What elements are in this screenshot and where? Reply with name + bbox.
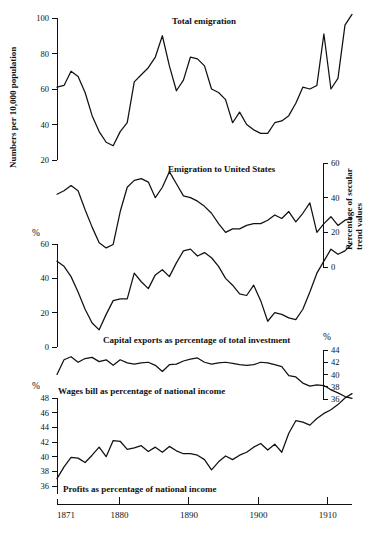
x-tick-label-1871: 1871: [57, 510, 75, 520]
panel1-tick-20: 20: [41, 155, 50, 165]
x-tick-label-1900: 1900: [249, 510, 268, 520]
panel4-tick-36: 36: [331, 394, 340, 404]
panel5-tick-48: 48: [41, 393, 50, 403]
panel5-caption: Profits as percentage of national income: [63, 484, 216, 494]
panel3-tick-60: 60: [41, 239, 50, 249]
panel5-tick-44: 44: [41, 422, 50, 432]
panel2-tick-60: 60: [331, 158, 340, 168]
panel1-y-axis-title: Numbers per 10,000 population: [8, 47, 18, 168]
panel4-tick-40: 40: [331, 370, 340, 380]
panel2-tick-0: 0: [331, 262, 335, 272]
panel3-caption: Capital exports as percentage of total i…: [103, 335, 290, 345]
panel5-tick-38: 38: [41, 466, 50, 476]
panel3-tick-20: 20: [41, 308, 50, 318]
panel5-tick-46: 46: [41, 408, 50, 418]
panel2-tick-40: 40: [331, 193, 340, 203]
panel4-tick-44: 44: [331, 345, 340, 355]
panel2-caption: Emigration to United States: [168, 164, 276, 174]
panel5-tick-40: 40: [41, 452, 50, 462]
x-tick-label-1890: 1890: [180, 510, 199, 520]
panel3-tick-0: 0: [45, 342, 49, 352]
panel4-percent-symbol: %: [323, 332, 331, 342]
panel1-tick-60: 60: [41, 84, 50, 94]
x-tick-label-1880: 1880: [111, 510, 130, 520]
panel5-tick-36: 36: [41, 481, 50, 491]
panel1-tick-40: 40: [41, 120, 50, 130]
panel2-y-axis-title-text: Percentage of secular: [344, 168, 354, 250]
panel2-y-axis-title-text2: trend values: [354, 202, 364, 250]
figure-container: Numbers per 10,000 population 20 40 60 8…: [0, 0, 374, 535]
panel5-tick-42: 42: [41, 437, 50, 447]
panel4-caption: Wages bill as percentage of national inc…: [58, 386, 225, 396]
x-tick-label-1910: 1910: [319, 510, 338, 520]
panel4-tick-42: 42: [331, 357, 340, 367]
panel3-tick-40: 40: [41, 273, 50, 283]
panel1-caption: Total emigration: [172, 16, 236, 26]
panel1-tick-100: 100: [36, 13, 49, 23]
multi-panel-time-series-chart: Numbers per 10,000 population 20 40 60 8…: [0, 0, 374, 535]
panel5-percent-symbol: %: [32, 381, 40, 391]
panel1-tick-80: 80: [41, 49, 50, 59]
panel3-percent-symbol: %: [32, 228, 40, 238]
panel2-tick-20: 20: [331, 227, 340, 237]
